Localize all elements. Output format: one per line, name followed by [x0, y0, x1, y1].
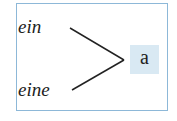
line-from-eine	[72, 60, 124, 90]
line-from-ein	[70, 28, 124, 60]
target-word-box: a	[130, 45, 159, 74]
target-word: a	[140, 46, 149, 68]
